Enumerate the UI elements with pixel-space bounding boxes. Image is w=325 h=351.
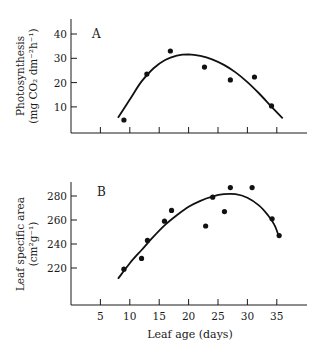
data-point bbox=[252, 74, 257, 79]
panel-a-x-ticks bbox=[100, 127, 276, 133]
data-point bbox=[277, 233, 282, 238]
y-tick-label: 280 bbox=[47, 190, 67, 202]
panel-a-y-label-title: Photosynthesis bbox=[14, 36, 26, 116]
data-point bbox=[210, 195, 215, 200]
y-tick-label: 20 bbox=[54, 77, 67, 89]
panel-a-photosynthesis: 10203040 A Photosynthesis (mg CO₂ dm⁻²h⁻… bbox=[14, 19, 307, 133]
data-point bbox=[145, 238, 150, 243]
data-point bbox=[228, 185, 233, 190]
panel-b-y-label: Leaf specific area (cm²g⁻¹) bbox=[14, 197, 39, 291]
panel-b-y-label-title: Leaf specific area bbox=[14, 197, 26, 291]
data-point bbox=[121, 267, 126, 272]
data-point bbox=[202, 64, 207, 69]
data-point bbox=[121, 117, 126, 122]
y-tick-label: 10 bbox=[54, 101, 67, 113]
data-point bbox=[144, 71, 149, 76]
panel-a-y-label: Photosynthesis (mg CO₂ dm⁻²h⁻¹) bbox=[14, 28, 39, 123]
y-tick-label: 240 bbox=[47, 238, 67, 250]
panel-a-fitted-curve bbox=[118, 54, 283, 118]
data-point bbox=[269, 216, 274, 221]
panel-a-y-ticks: 10203040 bbox=[54, 28, 77, 113]
y-tick-label: 260 bbox=[47, 214, 67, 226]
panel-a-y-label-units: (mg CO₂ dm⁻²h⁻¹) bbox=[27, 28, 39, 123]
data-point bbox=[228, 77, 233, 82]
x-tick-label: 25 bbox=[211, 310, 224, 322]
data-point bbox=[222, 209, 227, 214]
data-point bbox=[169, 208, 174, 213]
x-axis-label: Leaf age (days) bbox=[147, 328, 233, 341]
x-tick-label: 15 bbox=[153, 310, 166, 322]
y-tick-label: 220 bbox=[47, 262, 67, 274]
data-point bbox=[250, 185, 255, 190]
x-tick-label: 35 bbox=[270, 310, 283, 322]
data-point bbox=[162, 219, 167, 224]
figure: 10203040 A Photosynthesis (mg CO₂ dm⁻²h⁻… bbox=[0, 0, 325, 351]
panel-b-x-ticks: 5101520253035 bbox=[97, 299, 283, 322]
panel-b-y-ticks: 220240260280 bbox=[47, 190, 77, 274]
data-point bbox=[139, 256, 144, 261]
x-tick-label: 30 bbox=[241, 310, 254, 322]
data-point bbox=[269, 103, 274, 108]
chart-canvas: 10203040 A Photosynthesis (mg CO₂ dm⁻²h⁻… bbox=[0, 0, 325, 351]
panel-b-leaf-specific-area: 220240260280 5101520253035 B Leaf specif… bbox=[14, 182, 307, 341]
x-tick-label: 20 bbox=[182, 310, 195, 322]
y-tick-label: 40 bbox=[54, 28, 67, 40]
x-tick-label: 10 bbox=[123, 310, 136, 322]
panel-a-letter: A bbox=[91, 27, 101, 41]
panel-b-data-points bbox=[121, 185, 281, 272]
data-point bbox=[203, 223, 208, 228]
panel-b-fitted-curve bbox=[118, 194, 279, 279]
panel-b-y-label-units: (cm²g⁻¹) bbox=[27, 222, 39, 267]
x-tick-label: 5 bbox=[97, 310, 104, 322]
panel-b-letter: B bbox=[97, 185, 106, 199]
y-tick-label: 30 bbox=[54, 52, 67, 64]
data-point bbox=[168, 48, 173, 53]
